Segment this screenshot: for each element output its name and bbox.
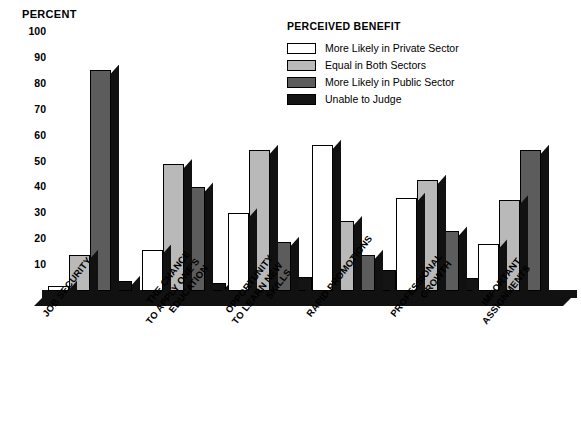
bar-top-face — [290, 237, 299, 247]
y-tick-10: 10 — [12, 258, 46, 270]
bar-top-face — [332, 140, 341, 150]
bar-top-face — [374, 250, 383, 260]
bar-top-face — [204, 182, 213, 192]
y-tick-70: 70 — [12, 103, 46, 115]
bar-top-face — [458, 226, 467, 236]
y-tick-40: 40 — [12, 180, 46, 192]
y-tick-30: 30 — [12, 206, 46, 218]
bar-top-face — [437, 175, 446, 185]
bar-series-0-group-3[interactable] — [312, 145, 333, 291]
bar-top-face — [183, 159, 192, 169]
bar-top-face — [269, 145, 278, 155]
bar-side-face — [110, 74, 119, 296]
bar-group-5 — [478, 0, 581, 430]
bar-group-0 — [48, 0, 151, 430]
y-tick-50: 50 — [12, 155, 46, 167]
y-tick-20: 20 — [12, 232, 46, 244]
bar-top-face — [131, 276, 140, 286]
y-tick-100: 100 — [12, 25, 46, 37]
bar-top-face — [353, 216, 362, 226]
bar-side-face — [458, 235, 467, 296]
y-tick-60: 60 — [12, 129, 46, 141]
y-tick-90: 90 — [12, 51, 46, 63]
bar-side-face — [374, 259, 383, 296]
y-tick-80: 80 — [12, 77, 46, 89]
bar-side-face — [540, 154, 549, 296]
bar-side-face — [204, 191, 213, 296]
